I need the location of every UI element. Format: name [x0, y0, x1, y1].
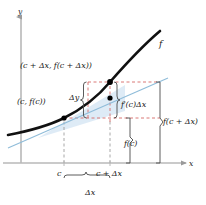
point-tangent-at-c-plus-dx	[107, 95, 112, 100]
delta-y-label: Δy	[69, 94, 79, 102]
delta-x-label: Δx	[85, 189, 95, 197]
y-axis-label: y	[18, 8, 22, 16]
point-c-fc	[61, 115, 66, 120]
tangent-shade-region	[38, 85, 125, 138]
point-label-lower: (c, f(c))	[17, 98, 46, 106]
point-label-upper: (c + Δx, f(c + Δx))	[20, 62, 92, 70]
curve-label-f: f	[159, 40, 162, 49]
tick-label-c-plus-dx: c + Δx	[96, 170, 122, 178]
tangent-rise-label: f′(c)Δx	[121, 101, 146, 109]
x-axis-label: x	[189, 160, 193, 168]
bracket-f-of-c-plus-dx	[156, 82, 163, 163]
differential-diagram: y x f (c + Δx, f(c + Δx)) (c, f(c)) Δy f…	[0, 0, 206, 205]
tick-label-c: c	[57, 170, 61, 178]
f-of-c-plus-dx-label: f(c + Δx)	[163, 118, 198, 126]
f-of-c-label: f(c)	[124, 140, 137, 148]
point-c-plus-dx	[107, 79, 113, 85]
